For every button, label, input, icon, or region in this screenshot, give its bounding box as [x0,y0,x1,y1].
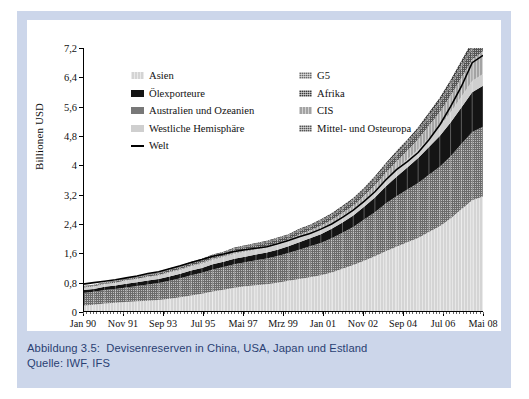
y-tick-label: 0,8 [64,277,77,288]
x-minor-tick [204,312,205,314]
legend-item-afrika: Afrika [299,88,345,99]
x-tick-label: Mrz 99 [268,318,298,329]
x-minor-tick [369,312,370,314]
legend-swatch-afrika [299,90,312,97]
legend-label-line: Welt [149,140,169,151]
x-minor-tick [251,312,252,314]
x-minor-tick [177,312,178,314]
x-minor-tick [379,312,380,314]
legend-item-westliche: Westliche Hemisphäre [131,123,299,134]
x-minor-tick [278,312,279,314]
x-minor-tick [130,312,131,314]
x-minor-tick [355,312,356,314]
x-minor-tick [342,312,343,314]
legend-row: Welt [131,137,431,155]
legend-item-cis: CIS [299,105,334,116]
y-tick-label: 7,2 [64,43,77,54]
y-tick [79,165,83,166]
x-minor-tick [349,312,350,314]
x-minor-tick [140,312,141,314]
legend-swatch-westliche [131,125,144,132]
x-minor-tick [322,312,323,314]
x-minor-tick [449,312,450,314]
x-tick-label: Jan 90 [70,318,96,329]
legend-item-g5: G5 [299,70,330,81]
x-minor-tick [137,312,138,314]
y-tick [79,48,83,49]
x-minor-tick [160,312,161,314]
x-minor-tick [318,312,319,314]
x-minor-tick [90,312,91,314]
x-minor-tick [107,312,108,314]
x-minor-tick [443,312,444,314]
y-tick-label: 5,6 [64,101,77,112]
x-minor-tick [214,312,215,314]
x-minor-tick [285,312,286,314]
caption-line-2: Quelle: IWF, IFS [27,356,501,371]
legend-item-asien: Asien [131,70,299,81]
x-minor-tick [133,312,134,314]
x-minor-tick [409,312,410,314]
x-minor-tick [234,312,235,314]
x-minor-tick [117,312,118,314]
x-minor-tick [167,312,168,314]
x-minor-tick [312,312,313,314]
x-minor-tick [365,312,366,314]
x-minor-tick [446,312,447,314]
x-minor-tick [352,312,353,314]
x-minor-tick [83,312,84,314]
x-minor-tick [144,312,145,314]
x-minor-tick [154,312,155,314]
x-minor-tick [127,312,128,314]
x-minor-tick [406,312,407,314]
x-minor-tick [298,312,299,314]
figure-container: Billionen USD 00,81,62,43,244,85,66,47,2… [17,11,511,388]
x-minor-tick [372,312,373,314]
legend-row: AsienG5 [131,67,431,85]
x-tick-label: Jan 01 [310,318,336,329]
x-minor-tick [332,312,333,314]
x-minor-tick [483,312,484,314]
legend-label-oelexporteure: Ölexporteure [149,88,205,99]
legend-row: Westliche HemisphäreMittel- und Osteurop… [131,120,431,138]
x-minor-tick [480,312,481,314]
x-minor-tick [110,312,111,314]
x-tick [363,312,364,316]
x-minor-tick [382,312,383,314]
y-axis-title: Billionen USD [33,103,45,170]
x-minor-tick [123,312,124,314]
legend-row: ÖlexporteureAfrika [131,85,431,103]
x-minor-tick [335,312,336,314]
x-minor-tick [359,312,360,314]
figure-caption: Abbildung 3.5: Devisenreserven in China,… [27,341,501,381]
x-tick-label: Sep 93 [149,318,177,329]
x-minor-tick [459,312,460,314]
x-minor-tick [422,312,423,314]
x-minor-tick [275,312,276,314]
x-minor-tick [184,312,185,314]
x-minor-tick [103,312,104,314]
x-minor-tick [201,312,202,314]
y-tick [79,136,83,137]
x-minor-tick [261,312,262,314]
x-minor-tick [191,312,192,314]
chart-panel: Billionen USD 00,81,62,43,244,85,66,47,2… [27,20,501,331]
x-minor-tick [362,312,363,314]
y-tick-label: 4 [72,160,77,171]
x-minor-tick [291,312,292,314]
x-minor-tick [228,312,229,314]
x-minor-tick [301,312,302,314]
x-minor-tick [476,312,477,314]
x-minor-tick [315,312,316,314]
x-minor-tick [325,312,326,314]
x-minor-tick [453,312,454,314]
legend-label-mittelost: Mittel- und Osteuropa [317,123,411,134]
legend-swatch-line-welt [131,142,144,149]
x-minor-tick [433,312,434,314]
x-tick-label: Mai 97 [228,318,257,329]
legend-label-afrika: Afrika [317,88,345,99]
x-minor-tick [241,312,242,314]
y-tick-label: 1,6 [64,248,77,259]
x-minor-tick [93,312,94,314]
x-tick-label: Mai 08 [468,318,497,329]
